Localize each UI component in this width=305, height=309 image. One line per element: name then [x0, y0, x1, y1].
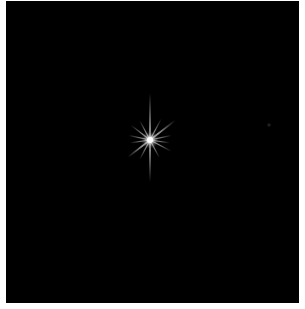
night-sky: [6, 1, 299, 303]
starburst-icon: [6, 1, 299, 303]
image-frame: [0, 0, 305, 309]
star: [127, 93, 175, 182]
faint-star: [266, 122, 272, 128]
